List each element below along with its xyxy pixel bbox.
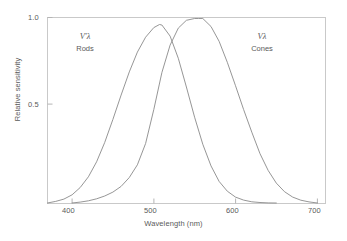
x-tick-label-500: 500 [144,206,157,215]
x-tick-label-400: 400 [62,206,75,215]
annotation-cones-label: Cones [232,43,292,55]
y-tick-label-1point0: 1.0 [28,13,39,22]
annotation-cones-symbol: Vλ [232,31,292,43]
y-tick-label-0point5: 0.5 [28,100,39,109]
annotation-rods: V'λ Rods [55,31,115,54]
chart-figure: 0.5 1.0 400 500 600 700 Wavelength (nm) … [0,0,347,241]
annotation-rods-label: Rods [55,43,115,55]
chart-plot-area [0,0,347,241]
x-axis-title: Wavelength (nm) [0,219,347,228]
x-axis-ticks [72,199,317,204]
x-tick-label-700: 700 [308,206,321,215]
y-axis-ticks [48,18,53,105]
annotation-cones: Vλ Cones [232,31,292,54]
annotation-rods-symbol: V'λ [55,31,115,43]
y-axis-title: Relative sensitivity [13,35,22,145]
x-tick-label-600: 600 [226,206,239,215]
